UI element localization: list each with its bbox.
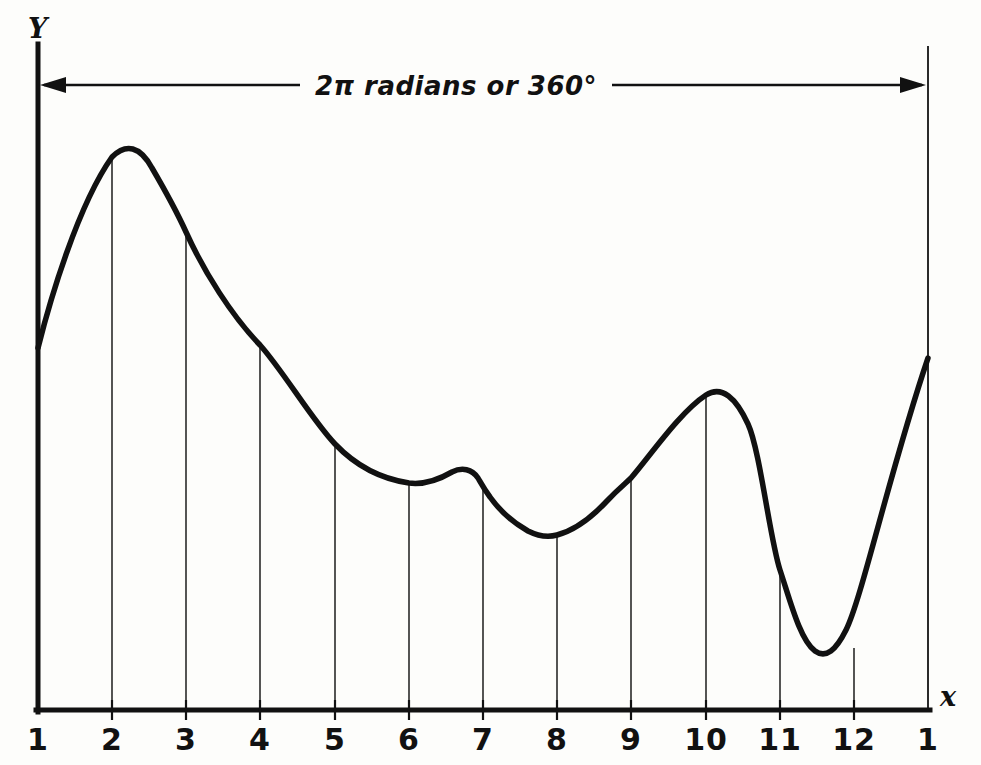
dimension-arrowhead-left [40, 77, 66, 93]
x-tick-label-3: 3 [175, 722, 197, 757]
ordinate-lines-group [112, 155, 854, 710]
x-tick-label-10: 10 [684, 722, 728, 757]
waveform-figure: 2π radians or 360° [0, 0, 981, 765]
x-tick-label-4: 4 [249, 722, 271, 757]
x-tick-label-11: 11 [758, 722, 802, 757]
x-tick-label-9: 9 [620, 722, 642, 757]
x-tick-label-8: 8 [546, 722, 568, 757]
figure-page: 2π radians or 360° [0, 0, 981, 765]
dimension-annotation-group: 2π radians or 360° [40, 71, 926, 101]
dimension-label: 2π radians or 360° [315, 71, 597, 101]
x-tick-label-6: 6 [398, 722, 420, 757]
x-tick-label-1: 1 [27, 722, 49, 757]
x-tick-label-12: 12 [832, 722, 876, 757]
y-axis-label: Y [28, 13, 50, 44]
x-tick-label-5: 5 [324, 722, 346, 757]
x-tick-label-7: 7 [472, 722, 494, 757]
x-tick-label-13: 1 [917, 722, 939, 757]
x-tick-labels-group: 1 2 3 4 5 6 7 8 9 10 11 12 1 [27, 722, 939, 757]
dimension-arrowhead-right [900, 77, 926, 93]
x-axis-label: x [939, 681, 957, 712]
x-tick-label-2: 2 [101, 722, 123, 757]
